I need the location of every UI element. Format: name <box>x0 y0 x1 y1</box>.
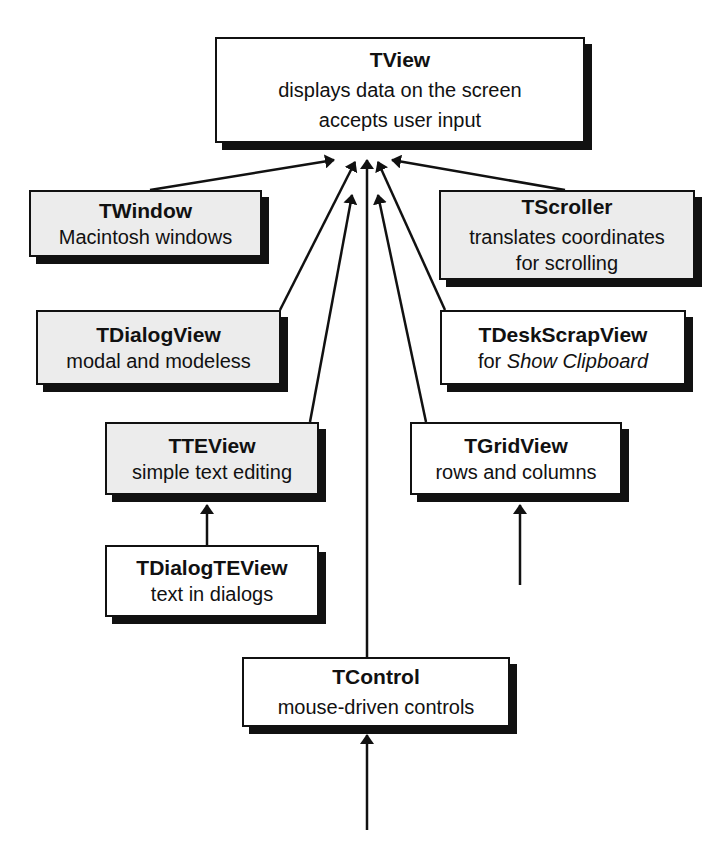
node-title: TWindow <box>31 198 260 224</box>
node-desc: simple text editing <box>107 459 317 485</box>
node-tdeskscrapview: TDeskScrapView for Show Clipboard <box>440 310 686 385</box>
node-desc: text in dialogs <box>107 581 317 607</box>
node-twindow: TWindow Macintosh windows <box>29 190 262 257</box>
node-desc: for Show Clipboard <box>442 348 684 374</box>
node-desc: Macintosh windows <box>31 224 260 250</box>
node-title: TGridView <box>412 433 620 459</box>
node-title: TDialogTEView <box>107 555 317 581</box>
node-desc: translates coordinates <box>441 224 693 250</box>
node-tteview: TTEView simple text editing <box>105 422 319 495</box>
arrow-tdeskscrapview-tview <box>378 162 445 310</box>
arrow-twindow-tview <box>150 160 334 190</box>
arrow-tscroller-tview <box>392 160 565 190</box>
node-tscroller: TScroller translates coordinates for scr… <box>439 190 695 280</box>
node-desc: modal and modeless <box>38 348 279 374</box>
desc-prefix: for <box>478 350 507 372</box>
node-title: TScroller <box>441 194 693 220</box>
node-desc: accepts user input <box>217 107 583 133</box>
arrow-tgridview-tview <box>378 195 426 422</box>
node-title: TView <box>217 47 583 73</box>
desc-italic: Show Clipboard <box>507 350 648 372</box>
node-desc: rows and columns <box>412 459 620 485</box>
node-tdialogview: TDialogView modal and modeless <box>36 310 281 385</box>
node-tdialogteview: TDialogTEView text in dialogs <box>105 545 319 617</box>
arrow-tteview-tview <box>310 195 352 422</box>
node-title: TControl <box>244 664 508 690</box>
node-title: TTEView <box>107 433 317 459</box>
node-title: TDialogView <box>38 322 279 348</box>
node-desc: displays data on the screen <box>217 77 583 103</box>
node-desc: for scrolling <box>441 250 693 276</box>
node-tview: TView displays data on the screen accept… <box>215 37 585 143</box>
node-desc: mouse-driven controls <box>244 694 508 720</box>
node-tgridview: TGridView rows and columns <box>410 422 622 495</box>
node-tcontrol: TControl mouse-driven controls <box>242 657 510 727</box>
node-title: TDeskScrapView <box>442 322 684 348</box>
